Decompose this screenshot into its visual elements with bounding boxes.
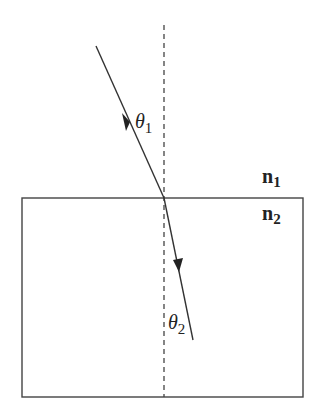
n1-label: n1 — [262, 165, 281, 190]
theta2-label: θ2 — [168, 311, 185, 337]
refraction-diagram: θ1 θ2 n1 n2 — [0, 0, 322, 417]
incident-arrow-icon — [122, 113, 130, 131]
medium-2-block — [22, 198, 303, 397]
n2-label: n2 — [262, 202, 281, 227]
theta1-label: θ1 — [135, 110, 152, 136]
refracted-arrow-icon — [173, 258, 183, 272]
